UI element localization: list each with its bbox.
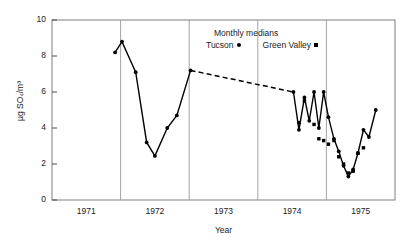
legend-title: Monthly medians — [214, 27, 318, 39]
x-tick-label: 1972 — [133, 206, 177, 216]
y-axis-title: µg SO₄/m³ — [15, 63, 25, 139]
legend-entry-tucson: Tucson — [206, 39, 241, 51]
chart-figure: 0246810 19711972197319741975 µg SO₄/m³ Y… — [0, 0, 411, 242]
y-tick-label: 0 — [18, 194, 46, 204]
tucson-dashed-gap — [191, 70, 294, 92]
legend-label-green-valley: Green Valley — [263, 40, 312, 50]
y-tick-label: 8 — [18, 50, 46, 60]
circle-marker-icon — [237, 43, 241, 47]
x-tick-label: 1973 — [202, 206, 246, 216]
square-marker-icon — [314, 43, 318, 47]
x-tick-label: 1971 — [64, 206, 108, 216]
y-axis-ticks — [52, 20, 57, 200]
legend-label-tucson: Tucson — [206, 40, 234, 50]
y-tick-label: 10 — [18, 14, 46, 24]
x-tick-label: 1975 — [339, 206, 383, 216]
y-tick-label: 2 — [18, 158, 46, 168]
chart-legend: Monthly medians TucsonGreen Valley — [206, 27, 318, 51]
legend-entry-green-valley: Green Valley — [263, 39, 319, 51]
x-tick-label: 1974 — [270, 206, 314, 216]
x-axis-title: Year — [52, 225, 395, 235]
